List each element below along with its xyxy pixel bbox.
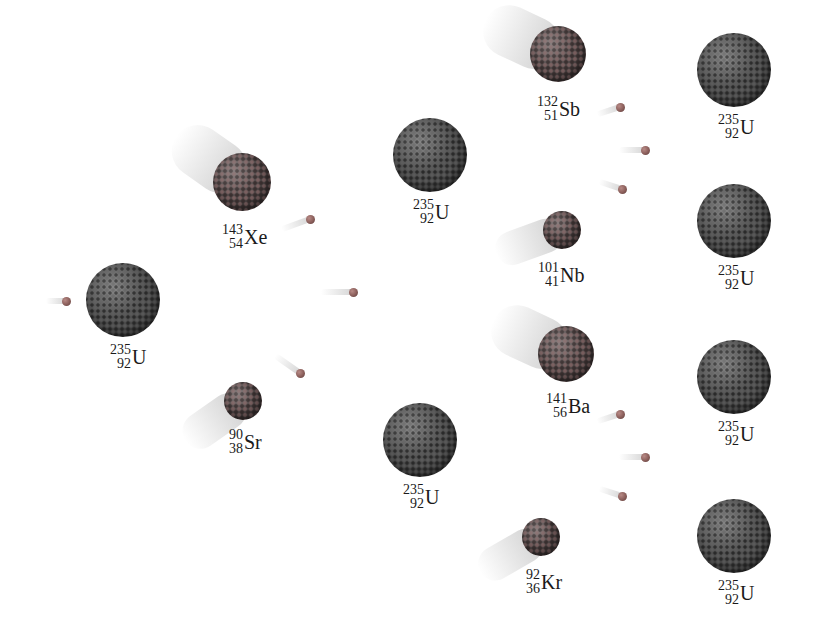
element-symbol: Ba <box>568 396 590 416</box>
atomic-number: 92 <box>725 434 739 448</box>
label-u235-right-4: 23592U <box>718 579 754 607</box>
nucleus-sb-132 <box>530 26 586 82</box>
element-symbol: U <box>425 487 439 507</box>
atomic-number: 92 <box>420 212 434 226</box>
mass-number: 235 <box>718 264 739 278</box>
neutron <box>616 410 625 419</box>
label-u235-initial: 23592U <box>110 343 146 371</box>
atomic-number: 41 <box>545 275 559 289</box>
neutron <box>641 453 650 462</box>
neutron <box>306 215 315 224</box>
mass-number: 132 <box>537 95 558 109</box>
neutron <box>641 146 650 155</box>
mass-number: 235 <box>718 420 739 434</box>
neutron <box>62 297 71 306</box>
neutron <box>618 492 627 501</box>
mass-number: 235 <box>403 483 424 497</box>
label-ba141: 14156Ba <box>546 392 590 420</box>
nucleus-ba-141 <box>538 326 594 382</box>
element-symbol: Sr <box>244 432 262 452</box>
mass-number: 235 <box>413 198 434 212</box>
atomic-number: 92 <box>410 497 424 511</box>
element-symbol: U <box>740 268 754 288</box>
element-symbol: U <box>740 583 754 603</box>
element-symbol: Kr <box>541 572 562 592</box>
label-u235-right-3: 23592U <box>718 420 754 448</box>
element-symbol: U <box>132 347 146 367</box>
mass-number: 143 <box>222 223 243 237</box>
nucleus-u-right-4 <box>697 499 771 573</box>
nucleus-u-mid-top <box>393 118 467 192</box>
atomic-number: 92 <box>117 357 131 371</box>
nucleus-u-right-1 <box>697 33 771 107</box>
nucleus-u-right-2 <box>697 184 771 258</box>
neutron <box>296 369 305 378</box>
element-symbol: U <box>740 424 754 444</box>
atomic-number: 51 <box>544 109 558 123</box>
mass-number: 90 <box>229 428 243 442</box>
label-u235-mid-bottom: 23592U <box>403 483 439 511</box>
element-symbol: Xe <box>244 227 267 247</box>
mass-number: 235 <box>718 113 739 127</box>
neutron <box>616 103 625 112</box>
nucleus-sr-90 <box>224 382 262 420</box>
mass-number: 235 <box>110 343 131 357</box>
element-symbol: U <box>435 202 449 222</box>
atomic-number: 92 <box>725 127 739 141</box>
nucleus-u-initial <box>86 263 160 337</box>
atomic-number: 54 <box>229 237 243 251</box>
element-symbol: Sb <box>559 99 580 119</box>
atomic-number: 36 <box>526 582 540 596</box>
label-xe143: 14354Xe <box>222 223 267 251</box>
atomic-number: 38 <box>229 442 243 456</box>
label-sb132: 13251Sb <box>537 95 580 123</box>
label-sr90: 9038Sr <box>229 428 262 456</box>
neutron <box>349 288 358 297</box>
label-u235-mid-top: 23592U <box>413 198 449 226</box>
nucleus-kr-92 <box>522 518 560 556</box>
label-u235-right-2: 23592U <box>718 264 754 292</box>
atomic-number: 92 <box>725 278 739 292</box>
label-u235-right-1: 23592U <box>718 113 754 141</box>
element-symbol: U <box>740 117 754 137</box>
neutron <box>618 185 627 194</box>
nucleus-nb-101 <box>543 211 581 249</box>
nucleus-xe-143 <box>213 153 271 211</box>
mass-number: 235 <box>718 579 739 593</box>
label-nb101: 10141Nb <box>538 261 584 289</box>
mass-number: 141 <box>546 392 567 406</box>
mass-number: 92 <box>526 568 540 582</box>
nucleus-u-mid-bottom <box>383 403 457 477</box>
label-kr92: 9236Kr <box>526 568 562 596</box>
atomic-number: 92 <box>725 593 739 607</box>
element-symbol: Nb <box>560 265 584 285</box>
atomic-number: 56 <box>553 406 567 420</box>
fission-chain-diagram: 23592U 14354Xe 9038Sr 23592U 23592U 1325… <box>0 0 815 631</box>
mass-number: 101 <box>538 261 559 275</box>
nucleus-u-right-3 <box>697 340 771 414</box>
